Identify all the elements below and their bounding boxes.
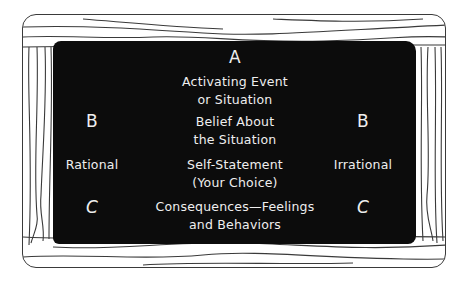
label-a: A (229, 47, 241, 67)
right-label-b: B (357, 111, 369, 131)
irrational-label: Irrational (334, 157, 392, 172)
activating-event-line2: or Situation (198, 92, 273, 107)
rational-label: Rational (66, 157, 119, 172)
right-label-c: C (357, 197, 369, 217)
consequences-line1: Consequences—Feelings (156, 199, 315, 214)
self-statement-line2: (Your Choice) (192, 175, 277, 190)
activating-event-line1: Activating Event (182, 74, 288, 89)
left-label-b: B (86, 111, 98, 131)
self-statement-line1: Self-Statement (187, 157, 283, 172)
belief-line1: Belief About (196, 114, 275, 129)
consequences-line2: and Behaviors (189, 217, 281, 232)
belief-line2: the Situation (194, 132, 277, 147)
left-label-c: C (86, 197, 98, 217)
